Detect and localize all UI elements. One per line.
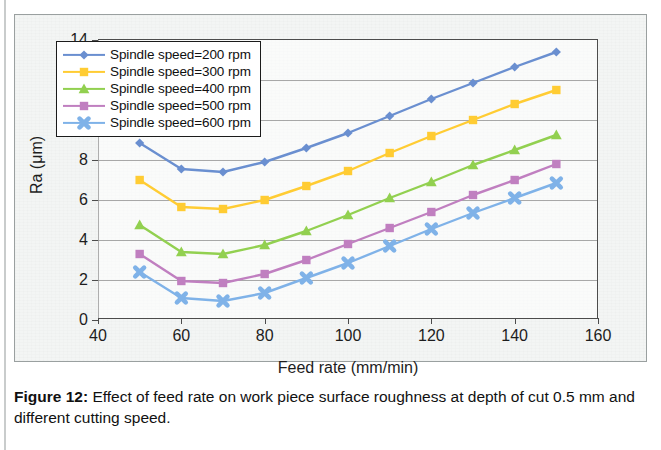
series-marker	[468, 78, 477, 87]
series-marker	[177, 294, 186, 303]
legend-swatch	[63, 65, 105, 79]
legend-marker-icon	[77, 99, 91, 113]
series-marker	[510, 194, 519, 203]
series-marker	[385, 149, 393, 157]
legend-swatch	[63, 48, 105, 62]
series-marker	[385, 111, 394, 120]
series-marker	[177, 277, 185, 285]
page-margin-rule	[4, 0, 6, 450]
series-marker	[260, 157, 269, 166]
legend-label: Spindle speed=200 rpm	[110, 47, 251, 62]
legend-label: Spindle speed=500 rpm	[110, 98, 251, 113]
y-axis-tick-label: 6	[79, 191, 88, 209]
legend-label: Spindle speed=300 rpm	[110, 64, 251, 79]
series-marker	[302, 274, 311, 283]
series-marker	[385, 224, 393, 232]
y-axis-tick-label: 2	[79, 271, 88, 289]
legend-item[interactable]: Spindle speed=400 rpm	[63, 80, 251, 97]
legend-swatch	[63, 82, 105, 96]
x-axis-tick-label: 140	[501, 327, 528, 345]
x-axis-tick-label: 100	[335, 327, 362, 345]
series-marker	[135, 268, 144, 277]
legend-label: Spindle speed=400 rpm	[110, 81, 251, 96]
series-marker	[135, 176, 143, 184]
legend-marker-icon	[77, 65, 91, 79]
x-axis-tick-label: 40	[89, 327, 107, 345]
legend-marker-icon	[77, 116, 91, 130]
series-marker	[552, 86, 560, 94]
y-axis-tick-label: 4	[79, 231, 88, 249]
figure-caption-label: Figure 12:	[14, 388, 88, 405]
series-marker	[510, 62, 519, 71]
series-marker	[469, 209, 478, 218]
series-marker	[177, 203, 185, 211]
series-marker	[343, 128, 352, 137]
figure-page: Ra (μm) Feed rate (mm/min) 0246810121440…	[0, 0, 661, 450]
series-marker	[427, 225, 436, 234]
x-axis-tick-label: 60	[172, 327, 190, 345]
legend-swatch	[63, 99, 105, 113]
legend-item[interactable]: Spindle speed=200 rpm	[63, 46, 251, 63]
series-marker	[219, 297, 228, 306]
series-marker	[552, 47, 561, 56]
chart-figure-panel: Ra (μm) Feed rate (mm/min) 0246810121440…	[14, 14, 647, 362]
legend-marker-icon	[77, 82, 91, 96]
series-marker	[385, 242, 394, 251]
series-marker	[135, 250, 143, 258]
x-axis-tick	[598, 318, 599, 324]
series-marker	[260, 196, 268, 204]
legend-item[interactable]: Spindle speed=600 rpm	[63, 114, 251, 131]
series-marker	[302, 143, 311, 152]
series-marker	[510, 176, 518, 184]
series-marker	[134, 220, 145, 230]
series-line	[140, 135, 557, 254]
x-axis-label: Feed rate (mm/min)	[278, 359, 418, 377]
series-marker	[302, 256, 310, 264]
series-marker	[344, 259, 353, 268]
series-marker	[302, 182, 310, 190]
series-marker	[219, 279, 227, 287]
chart-series	[134, 130, 561, 259]
series-marker	[260, 289, 269, 298]
series-marker	[469, 116, 477, 124]
figure-caption: Figure 12: Effect of feed rate on work p…	[14, 386, 654, 429]
y-axis-tick-label: 0	[79, 311, 88, 329]
series-marker	[219, 205, 227, 213]
series-marker	[552, 179, 561, 188]
series-marker	[218, 167, 227, 176]
series-marker	[260, 270, 268, 278]
series-marker	[551, 130, 562, 140]
legend-swatch	[63, 116, 105, 130]
chart-legend: Spindle speed=200 rpmSpindle speed=300 r…	[56, 41, 261, 137]
series-marker	[427, 208, 435, 216]
series-marker	[552, 160, 560, 168]
x-axis-tick-label: 80	[256, 327, 274, 345]
legend-marker-icon	[77, 48, 91, 62]
legend-label: Spindle speed=600 rpm	[110, 115, 251, 130]
series-marker	[344, 167, 352, 175]
x-axis-tick-label: 160	[585, 327, 612, 345]
series-marker	[427, 132, 435, 140]
legend-item[interactable]: Spindle speed=500 rpm	[63, 97, 251, 114]
series-marker	[510, 100, 518, 108]
series-marker	[469, 191, 477, 199]
series-marker	[427, 94, 436, 103]
series-marker	[344, 240, 352, 248]
figure-caption-text: Effect of feed rate on work piece surfac…	[14, 388, 635, 426]
y-axis-label: Ra (μm)	[28, 136, 46, 194]
x-axis-tick-label: 120	[418, 327, 445, 345]
legend-item[interactable]: Spindle speed=300 rpm	[63, 63, 251, 80]
chart-series	[135, 160, 560, 287]
y-axis-tick-label: 8	[79, 151, 88, 169]
